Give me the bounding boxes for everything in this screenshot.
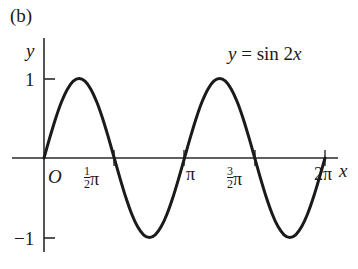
y-tick-label-1: 1 — [25, 70, 35, 89]
x-tick-label-pi: π — [186, 165, 195, 183]
pi-glyph: π — [233, 169, 242, 189]
figure-panel: (b) y = sin 2x y x 1 −1 O 1 2 π π 3 2 π … — [0, 0, 358, 269]
pi-glyph: π — [90, 169, 99, 189]
coefficient: 2 — [314, 164, 323, 184]
plot-area — [0, 0, 358, 269]
origin-label: O — [48, 167, 62, 186]
pi-glyph: π — [186, 164, 195, 184]
x-tick-label-three-half-pi: 3 2 π — [227, 165, 242, 190]
y-tick-label-neg1: −1 — [14, 229, 34, 248]
x-tick-label-two-pi: 2π — [314, 165, 332, 183]
pi-glyph: π — [323, 164, 332, 184]
x-axis-label: x — [339, 161, 347, 180]
x-tick-label-half-pi: 1 2 π — [84, 165, 99, 190]
y-axis-label: y — [26, 41, 34, 60]
